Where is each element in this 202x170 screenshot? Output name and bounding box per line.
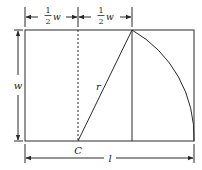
svg-text:2: 2 bbox=[45, 17, 50, 26]
label-height-w: w bbox=[14, 80, 23, 91]
label-center-c: C bbox=[74, 145, 82, 156]
svg-text:1: 1 bbox=[98, 6, 103, 15]
outer-rectangle bbox=[25, 30, 194, 141]
label-half-w-right: 1 2 w bbox=[98, 6, 115, 26]
svg-text:w: w bbox=[53, 12, 61, 22]
arc bbox=[132, 30, 194, 141]
label-radius-r: r bbox=[96, 81, 102, 92]
svg-text:2: 2 bbox=[98, 17, 103, 26]
svg-text:1: 1 bbox=[45, 6, 50, 15]
label-length-l: l bbox=[108, 153, 111, 164]
golden-rectangle-diagram: 1 2 w 1 2 w w r C l bbox=[0, 0, 202, 170]
radius-line bbox=[78, 30, 132, 141]
label-half-w-left: 1 2 w bbox=[45, 6, 62, 26]
svg-text:w: w bbox=[106, 12, 114, 22]
